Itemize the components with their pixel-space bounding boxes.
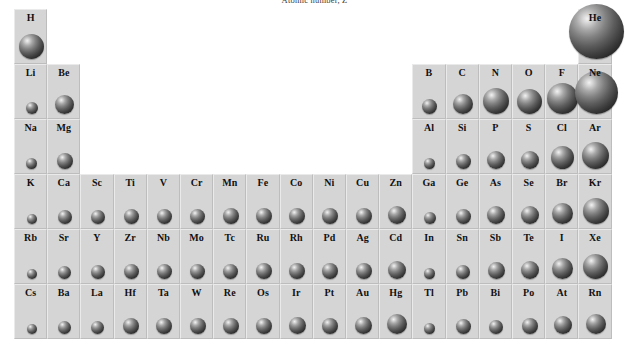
element-cell-hf[interactable]: Hf [114, 284, 147, 339]
element-cell-at[interactable]: At [545, 284, 578, 339]
element-sphere-co [289, 208, 305, 224]
element-sphere-n [483, 88, 509, 114]
element-sphere-ba [58, 321, 71, 334]
element-cell-hg[interactable]: Hg [379, 284, 412, 339]
element-cell-n[interactable]: N [479, 64, 512, 119]
element-cell-sn[interactable]: Sn [446, 229, 479, 284]
element-cell-te[interactable]: Te [512, 229, 545, 284]
element-cell-ar[interactable]: Ar [578, 119, 611, 174]
element-cell-p[interactable]: P [479, 119, 512, 174]
element-sphere-s [521, 151, 539, 169]
element-cell-i[interactable]: I [545, 229, 578, 284]
element-cell-cs[interactable]: Cs [14, 284, 47, 339]
element-cell-se[interactable]: Se [512, 174, 545, 229]
element-cell-ni[interactable]: Ni [313, 174, 346, 229]
element-symbol-ga: Ga [413, 177, 444, 188]
element-cell-y[interactable]: Y [80, 229, 113, 284]
element-cell-co[interactable]: Co [280, 174, 313, 229]
element-cell-rb[interactable]: Rb [14, 229, 47, 284]
element-cell-v[interactable]: V [147, 174, 180, 229]
element-cell-rn[interactable]: Rn [578, 284, 611, 339]
element-cell-f[interactable]: F [545, 64, 578, 119]
element-symbol-au: Au [347, 287, 378, 298]
element-cell-h[interactable]: H [14, 9, 47, 64]
element-cell-pb[interactable]: Pb [446, 284, 479, 339]
element-cell-ir[interactable]: Ir [280, 284, 313, 339]
element-cell-na[interactable]: Na [14, 119, 47, 174]
element-cell-zn[interactable]: Zn [379, 174, 412, 229]
element-symbol-b: B [413, 67, 444, 78]
element-cell-as[interactable]: As [479, 174, 512, 229]
element-cell-nb[interactable]: Nb [147, 229, 180, 284]
element-cell-ta[interactable]: Ta [147, 284, 180, 339]
element-symbol-k: K [15, 177, 46, 188]
element-cell-bi[interactable]: Bi [479, 284, 512, 339]
element-cell-sb[interactable]: Sb [479, 229, 512, 284]
element-symbol-la: La [81, 287, 112, 298]
element-cell-cr[interactable]: Cr [180, 174, 213, 229]
element-cell-be[interactable]: Be [47, 64, 80, 119]
element-cell-k[interactable]: K [14, 174, 47, 229]
element-cell-pd[interactable]: Pd [313, 229, 346, 284]
element-symbol-si: Si [447, 122, 478, 133]
element-cell-cu[interactable]: Cu [346, 174, 379, 229]
element-sphere-h [19, 34, 44, 59]
element-symbol-tl: Tl [413, 287, 444, 298]
element-sphere-at [554, 316, 572, 334]
element-cell-la[interactable]: La [80, 284, 113, 339]
element-symbol-ta: Ta [148, 287, 179, 298]
element-cell-xe[interactable]: Xe [578, 229, 611, 284]
element-cell-mo[interactable]: Mo [180, 229, 213, 284]
element-cell-fe[interactable]: Fe [246, 174, 279, 229]
element-cell-mg[interactable]: Mg [47, 119, 80, 174]
element-cell-ge[interactable]: Ge [446, 174, 479, 229]
element-symbol-ne: Ne [579, 67, 610, 78]
element-symbol-as: As [480, 177, 511, 188]
element-cell-re[interactable]: Re [213, 284, 246, 339]
element-cell-po[interactable]: Po [512, 284, 545, 339]
element-symbol-ni: Ni [314, 177, 345, 188]
element-sphere-zn [388, 206, 406, 224]
element-cell-au[interactable]: Au [346, 284, 379, 339]
element-cell-si[interactable]: Si [446, 119, 479, 174]
element-cell-ru[interactable]: Ru [246, 229, 279, 284]
chart-caption: Atomic number, Z [0, 0, 629, 5]
element-cell-ca[interactable]: Ca [47, 174, 80, 229]
element-cell-in[interactable]: In [412, 229, 445, 284]
element-symbol-cl: Cl [546, 122, 577, 133]
element-symbol-bi: Bi [480, 287, 511, 298]
element-cell-w[interactable]: W [180, 284, 213, 339]
element-cell-tl[interactable]: Tl [412, 284, 445, 339]
element-sphere-mo [190, 264, 205, 279]
element-sphere-al [424, 158, 435, 169]
element-symbol-o: O [513, 67, 544, 78]
element-sphere-f [547, 83, 578, 114]
element-cell-cl[interactable]: Cl [545, 119, 578, 174]
element-cell-b[interactable]: B [412, 64, 445, 119]
element-cell-ag[interactable]: Ag [346, 229, 379, 284]
element-cell-tc[interactable]: Tc [213, 229, 246, 284]
element-cell-cd[interactable]: Cd [379, 229, 412, 284]
element-sphere-cl [551, 146, 574, 169]
element-cell-o[interactable]: O [512, 64, 545, 119]
element-cell-sc[interactable]: Sc [80, 174, 113, 229]
element-cell-s[interactable]: S [512, 119, 545, 174]
element-cell-al[interactable]: Al [412, 119, 445, 174]
element-cell-ne[interactable]: Ne [578, 64, 611, 119]
element-cell-ba[interactable]: Ba [47, 284, 80, 339]
element-cell-rh[interactable]: Rh [280, 229, 313, 284]
element-cell-zr[interactable]: Zr [114, 229, 147, 284]
element-symbol-ru: Ru [247, 232, 278, 243]
element-cell-kr[interactable]: Kr [578, 174, 611, 229]
element-cell-c[interactable]: C [446, 64, 479, 119]
element-symbol-rh: Rh [281, 232, 312, 243]
element-cell-he[interactable]: He [578, 9, 611, 64]
element-cell-ga[interactable]: Ga [412, 174, 445, 229]
element-cell-mn[interactable]: Mn [213, 174, 246, 229]
element-cell-os[interactable]: Os [246, 284, 279, 339]
element-cell-li[interactable]: Li [14, 64, 47, 119]
element-cell-sr[interactable]: Sr [47, 229, 80, 284]
element-cell-br[interactable]: Br [545, 174, 578, 229]
element-cell-pt[interactable]: Pt [313, 284, 346, 339]
element-cell-ti[interactable]: Ti [114, 174, 147, 229]
